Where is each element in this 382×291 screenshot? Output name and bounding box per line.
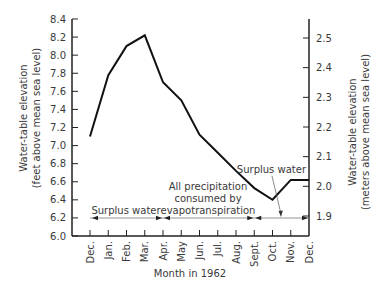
x-tick-label: Dec. <box>304 241 315 264</box>
left-axis-title: Water-table elevation (feet above mean s… <box>18 48 42 189</box>
x-tick-label: Jun. <box>194 241 205 261</box>
water-table-chart: 6.06.26.46.66.87.07.27.47.67.88.08.28.4 … <box>0 0 382 291</box>
annotations: Surplus water All precipitation consumed… <box>90 164 309 220</box>
arrow-left-icon <box>255 216 261 220</box>
x-tick-label: May <box>176 241 187 262</box>
left-y-ticks: 6.06.26.46.66.87.07.27.47.67.88.08.28.4 <box>50 14 78 242</box>
x-tick-label: Nov. <box>285 241 296 263</box>
y2-tick-label: 2.1 <box>316 151 332 162</box>
x-tick-label: Feb. <box>121 241 132 262</box>
y-tick-label: 6.2 <box>50 212 66 223</box>
water-table-line <box>90 35 309 200</box>
y-tick-label: 7.0 <box>50 140 66 151</box>
y2-tick-label: 2.5 <box>316 33 332 44</box>
right-axis-title-line-1: Water-table elevation <box>347 78 358 185</box>
arrow-left-icon <box>164 216 170 220</box>
y-tick-label: 8.2 <box>50 32 66 43</box>
leader-arrow-icon <box>279 211 283 217</box>
right-axis-title-line-2: (meters above mean sea level) <box>360 54 371 210</box>
x-tick-label: Dec. <box>85 241 96 264</box>
x-axis-title: Month in 1962 <box>154 268 226 279</box>
y-tick-label: 6.4 <box>50 194 66 205</box>
right-y-ticks: 1.92.02.12.22.32.42.5 <box>303 33 332 222</box>
y-tick-label: 7.4 <box>50 104 66 115</box>
annotation-evapotranspiration-line-2: consumed by <box>174 193 241 204</box>
x-tick-label: Aug. <box>231 241 242 264</box>
y-tick-label: 6.8 <box>50 158 66 169</box>
y-tick-label: 6.0 <box>50 231 66 242</box>
x-tick-label: Mar. <box>139 241 150 262</box>
y2-tick-label: 1.9 <box>316 211 332 222</box>
y2-tick-label: 2.3 <box>316 92 332 103</box>
left-axis-title-line-2: (feet above mean sea level) <box>31 48 42 189</box>
annotation-evapotranspiration-line-3: evapotranspiration <box>161 205 256 216</box>
x-tick-label: Apr. <box>158 241 169 261</box>
y-tick-label: 7.6 <box>50 86 66 97</box>
arrow-right-icon <box>156 216 162 220</box>
annotation-evapotranspiration-line-1: All precipitation <box>169 181 248 192</box>
right-axis-title: Water-table elevation (meters above mean… <box>347 54 371 210</box>
annotation-surplus-water-2: Surplus water <box>237 164 307 175</box>
y-tick-label: 8.0 <box>50 50 66 61</box>
annotation-leader-line <box>272 176 281 214</box>
x-tick-label: Oct. <box>267 241 278 261</box>
x-tick-label: Jan. <box>103 241 114 261</box>
y-tick-label: 8.4 <box>50 14 66 25</box>
y2-tick-label: 2.4 <box>316 62 332 73</box>
left-axis-title-line-1: Water-table elevation <box>18 64 29 171</box>
y-tick-label: 7.8 <box>50 68 66 79</box>
y2-tick-label: 2.0 <box>316 181 332 192</box>
arrow-left-icon <box>92 216 98 220</box>
y2-tick-label: 2.2 <box>316 122 332 133</box>
y-tick-label: 7.2 <box>50 122 66 133</box>
arrow-right-icon <box>247 216 253 220</box>
x-tick-label: Sept. <box>249 241 260 267</box>
y-tick-label: 6.6 <box>50 176 66 187</box>
x-tick-label: Jul. <box>212 241 223 257</box>
annotation-surplus-water-1: Surplus water <box>91 205 161 216</box>
